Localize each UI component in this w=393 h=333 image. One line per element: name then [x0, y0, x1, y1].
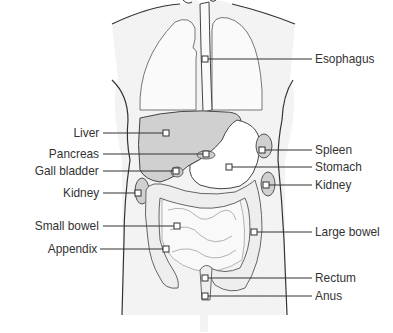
marker-rectum	[202, 275, 208, 281]
label-gall-bladder: Gall bladder	[35, 163, 99, 179]
label-anus: Anus	[315, 288, 342, 304]
marker-kidney-left	[135, 190, 141, 196]
marker-stomach	[226, 164, 232, 170]
spleen	[256, 134, 272, 158]
label-esophagus: Esophagus	[315, 51, 374, 67]
label-large-bowel: Large bowel	[315, 224, 380, 240]
marker-anus	[202, 293, 208, 299]
marker-large-bowel	[251, 229, 257, 235]
marker-gall-bladder	[173, 168, 179, 174]
label-pancreas: Pancreas	[49, 146, 99, 162]
marker-small-bowel	[174, 223, 180, 229]
label-kidney-left: Kidney	[63, 185, 99, 201]
marker-esophagus	[202, 56, 208, 62]
label-small-bowel: Small bowel	[35, 218, 99, 234]
marker-liver	[163, 130, 169, 136]
marker-appendix	[163, 246, 169, 252]
label-stomach: Stomach	[315, 159, 362, 175]
marker-kidney-right	[263, 182, 269, 188]
label-kidney-right: Kidney	[315, 177, 351, 193]
marker-pancreas	[203, 151, 209, 157]
label-spleen: Spleen	[315, 142, 352, 158]
label-appendix: Appendix	[47, 241, 97, 257]
label-liver: Liver	[73, 125, 99, 141]
marker-spleen	[259, 147, 265, 153]
label-rectum: Rectum	[315, 270, 356, 286]
